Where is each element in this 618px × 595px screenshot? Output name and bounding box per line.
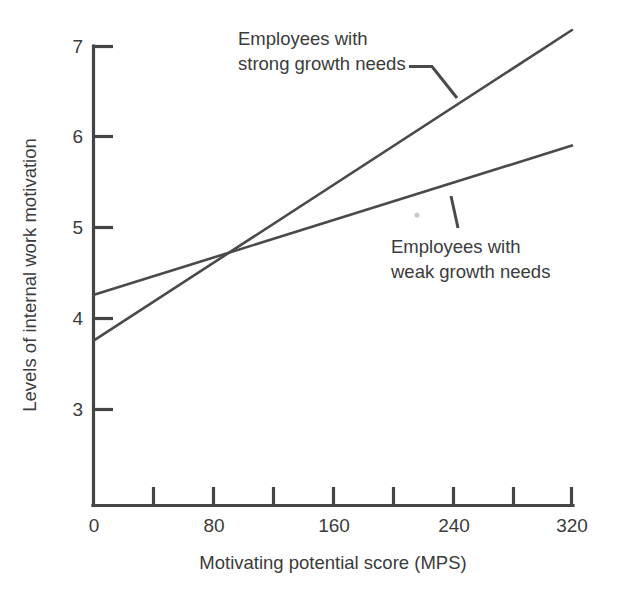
x-tick-label-80: 80 — [203, 515, 224, 536]
annotation-strong-line-2: strong growth needs — [238, 53, 406, 74]
x-axis-title: Motivating potential score (MPS) — [199, 552, 466, 573]
y-tick-label-3: 3 — [72, 399, 83, 420]
y-tick-label-4: 4 — [72, 308, 83, 329]
x-tick-label-320: 320 — [556, 515, 588, 536]
x-tick-label-160: 160 — [318, 515, 350, 536]
y-tick-label-7: 7 — [72, 36, 83, 57]
paper-speck — [414, 212, 419, 217]
annotation-weak-line-1: Employees with — [391, 236, 521, 257]
annotation-weak-line-2: weak growth needs — [390, 261, 550, 282]
annotation-strong-line-1: Employees with — [238, 28, 368, 49]
y-tick-label-6: 6 — [72, 126, 83, 147]
line-chart: 7 6 5 4 3 0 80 160 240 320 Motivating po… — [0, 0, 618, 595]
chart-page: 7 6 5 4 3 0 80 160 240 320 Motivating po… — [0, 0, 618, 595]
x-tick-label-240: 240 — [438, 515, 470, 536]
y-axis-title: Levels of internal work motivation — [19, 138, 40, 412]
x-tick-label-0: 0 — [89, 515, 100, 536]
y-tick-label-5: 5 — [72, 217, 83, 238]
